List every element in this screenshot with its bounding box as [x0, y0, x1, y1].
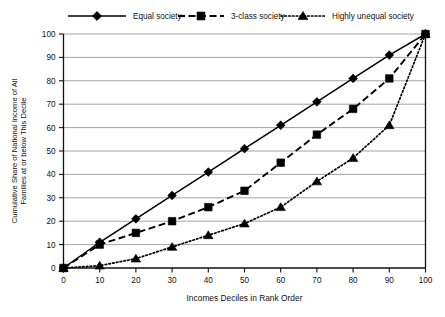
data-point-marker [385, 121, 395, 129]
data-point-marker [204, 168, 213, 177]
x-axis-tick-labels: 0102030405060708090100 [61, 276, 433, 285]
x-tick-label-50: 50 [240, 276, 250, 285]
y-axis-tick-labels: 0102030405060708090100 [42, 30, 56, 273]
legend-item-3-class-society[interactable]: 3-class society [178, 12, 286, 21]
x-tick-label-100: 100 [419, 276, 433, 285]
y-tick-label-10: 10 [46, 241, 56, 250]
data-point-marker [313, 131, 321, 139]
chart-container: Equal society3-class societyHighly unequ… [0, 0, 445, 317]
x-tick-label-80: 80 [349, 276, 359, 285]
data-point-marker [349, 105, 357, 113]
y-tick-label-60: 60 [46, 124, 56, 133]
y-tick-label-30: 30 [46, 194, 56, 203]
x-tick-label-60: 60 [276, 276, 286, 285]
lorenz-curve-chart: Equal society3-class societyHighly unequ… [0, 0, 445, 317]
y-axis-title-line-1: Cumulative Share of National Income of A… [10, 79, 19, 224]
x-tick-label-10: 10 [95, 276, 105, 285]
gridlines [64, 34, 426, 245]
x-axis-title: Incomes Deciles in Rank Order [187, 293, 303, 303]
data-point-marker [132, 214, 141, 223]
legend-label: Equal society [133, 12, 183, 21]
legend-marker-diamond-icon [92, 11, 101, 20]
data-point-marker [385, 51, 394, 60]
data-point-marker [277, 159, 285, 167]
tick-marks [59, 34, 426, 273]
y-tick-label-70: 70 [46, 100, 56, 109]
data-point-marker [386, 75, 394, 83]
y-tick-label-0: 0 [51, 264, 56, 273]
y-tick-label-20: 20 [46, 217, 56, 226]
y-tick-label-40: 40 [46, 170, 56, 179]
legend-label: Highly unequal society [332, 12, 415, 21]
data-point-marker [205, 203, 213, 211]
x-tick-label-0: 0 [61, 276, 66, 285]
legend-marker-square-icon [197, 12, 205, 20]
data-point-marker [241, 187, 249, 195]
data-point-marker [96, 241, 104, 249]
legend-label: 3-class society [231, 12, 286, 21]
data-point-marker [312, 177, 322, 185]
chart-legend: Equal society3-class societyHighly unequ… [68, 11, 415, 21]
x-tick-label-40: 40 [204, 276, 214, 285]
y-tick-label-50: 50 [46, 147, 56, 156]
x-tick-label-30: 30 [168, 276, 178, 285]
data-point-marker [313, 97, 322, 106]
y-tick-label-80: 80 [46, 77, 56, 86]
legend-item-equal-society[interactable]: Equal society [68, 11, 183, 21]
x-tick-label-20: 20 [131, 276, 141, 285]
data-point-marker [349, 74, 358, 83]
x-tick-label-70: 70 [312, 276, 322, 285]
data-point-marker [240, 219, 250, 227]
data-point-marker [132, 229, 140, 237]
legend-item-highly-unequal-society[interactable]: Highly unequal society [281, 11, 415, 21]
x-tick-label-90: 90 [385, 276, 395, 285]
y-tick-label-100: 100 [42, 30, 56, 39]
data-point-marker [168, 191, 177, 200]
data-point-marker [240, 144, 249, 153]
data-point-marker [168, 217, 176, 225]
y-axis-title-line-2: Families at or below This Decile [19, 97, 28, 204]
data-point-marker [276, 121, 285, 130]
y-tick-label-90: 90 [46, 53, 56, 62]
